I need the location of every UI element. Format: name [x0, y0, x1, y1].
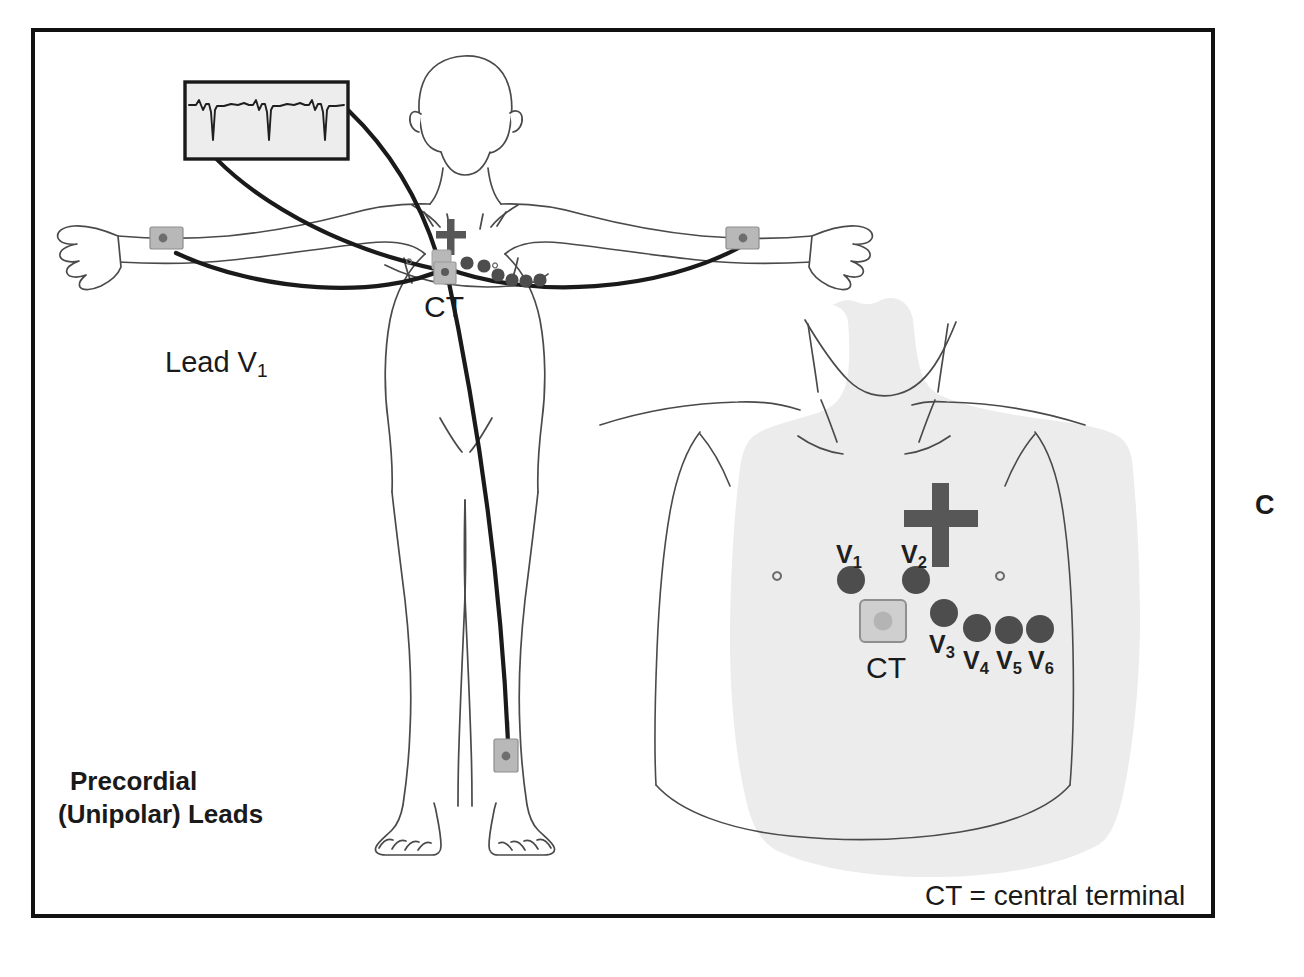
lead-wire-left-arm [176, 253, 446, 288]
lead-v1-subscript: 1 [257, 360, 268, 381]
figure-title: Precordial (Unipolar) Leads [70, 765, 263, 832]
chest-dot-v5-left [519, 274, 532, 287]
ct-label-left: CT [424, 289, 464, 324]
chest-dot-v4-left [505, 273, 518, 286]
chest-dot-v6-left [533, 273, 546, 286]
chest-dot-v6-right [1026, 615, 1054, 643]
chest-dot-v3-left [491, 268, 504, 281]
lead-v1-text: Lead V [165, 346, 257, 378]
chest-dot-v3-right [930, 599, 958, 627]
vlead-label-v1: V1 [836, 540, 862, 569]
lead-v1-label: Lead V1 [165, 345, 268, 379]
vlead-label-v2: V2 [901, 540, 927, 569]
figure-root: Lead V1 CT CT Precordial (Unipolar) Lead… [0, 0, 1304, 977]
panel-letter: C [1255, 490, 1275, 522]
right-torso-figure [600, 298, 1140, 877]
figure-title-line-1: Precordial [70, 765, 263, 798]
chest-dot-v2-left [477, 259, 490, 272]
chest-dot-v4-right [963, 614, 991, 642]
ecg-strip [185, 82, 348, 159]
vlead-label-v5: V5 [996, 646, 1022, 675]
chest-dot-v5-right [995, 616, 1023, 644]
figure-title-line-2: (Unipolar) Leads [58, 798, 263, 831]
vlead-label-v4: V4 [963, 646, 989, 675]
ct-label-right: CT [866, 650, 906, 685]
legend-text: CT = central terminal [925, 879, 1185, 912]
vlead-label-v3: V3 [929, 630, 955, 659]
lead-wire-right-arm [446, 245, 744, 287]
lead-wires [176, 110, 744, 742]
lead-wire-left-leg [446, 268, 508, 742]
chest-dot-v1-left [460, 256, 473, 269]
vlead-label-v6: V6 [1028, 646, 1054, 675]
